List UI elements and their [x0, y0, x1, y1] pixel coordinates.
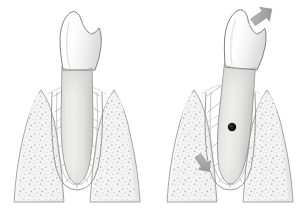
tooth-root — [61, 66, 93, 184]
tooth-diagram-svg — [0, 0, 306, 211]
pressure-dot — [228, 123, 236, 131]
figure-root: Tooth movement under orthodontic force — [0, 0, 306, 211]
